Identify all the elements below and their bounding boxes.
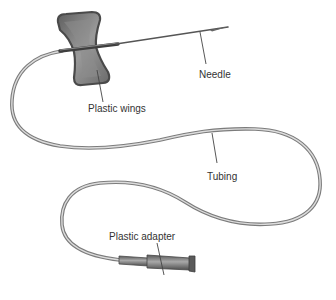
needle-label: Needle — [199, 70, 231, 80]
butterfly-needle-diagram: Needle Plastic wings Tubing Plastic adap… — [0, 0, 336, 300]
tubing — [12, 51, 320, 260]
plastic-adapter — [119, 255, 195, 272]
tubing-label: Tubing — [207, 172, 237, 182]
plastic-adapter-label: Plastic adapter — [109, 232, 175, 242]
plastic-wings-label: Plastic wings — [88, 104, 146, 114]
